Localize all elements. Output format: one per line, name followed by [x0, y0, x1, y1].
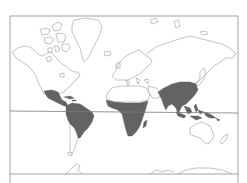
- africa-shaded: [106, 100, 148, 136]
- northern-asia: [146, 18, 236, 84]
- iceland: [104, 51, 111, 56]
- world-map: [0, 0, 247, 183]
- map-canvas: [0, 0, 247, 183]
- europe: [112, 50, 152, 86]
- madagascar-shaded: [143, 120, 147, 128]
- north-africa: [106, 86, 150, 102]
- australia: [190, 122, 214, 144]
- antarctica: [66, 164, 232, 174]
- south-asia-shaded: [158, 82, 198, 114]
- japan: [196, 68, 206, 86]
- tierra-del-fuego: [68, 152, 72, 156]
- central-america-shaded: [44, 90, 68, 106]
- greenland: [72, 18, 102, 62]
- new-zealand: [220, 134, 228, 144]
- north-america: [12, 22, 80, 94]
- caribbean-shaded: [64, 96, 74, 99]
- caribbean-shaded-2: [72, 100, 76, 101]
